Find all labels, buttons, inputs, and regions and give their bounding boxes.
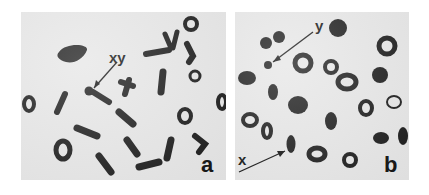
annotation-x: x — [238, 152, 246, 167]
panel-label-b: b — [384, 154, 397, 176]
annotation-xy: xy — [109, 50, 126, 65]
chromosome-spread-b — [235, 12, 409, 180]
chromosome-spread-a — [21, 12, 226, 180]
micrograph-panel-a: xy a — [21, 12, 226, 180]
panel-label-a: a — [201, 154, 213, 176]
annotation-y: y — [315, 18, 323, 33]
micrograph-panel-b: y x b — [235, 12, 409, 180]
